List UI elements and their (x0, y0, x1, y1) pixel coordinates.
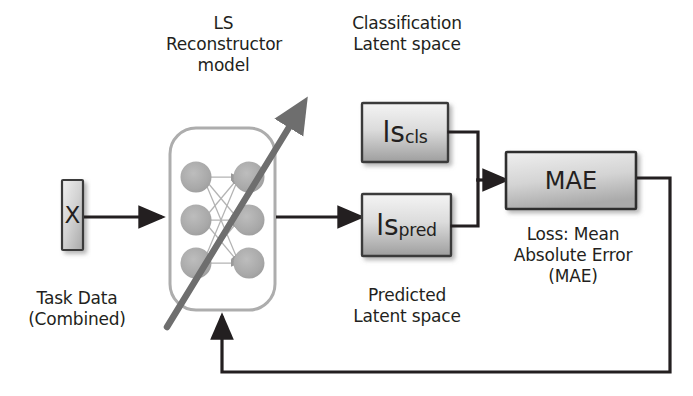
edge-latents-to-mae (449, 132, 506, 226)
ls-cls-box (362, 103, 448, 162)
loss-caption: Loss: Mean Absolute Error (MAE) (503, 224, 643, 287)
input-caption: Task Data (Combined) (16, 288, 138, 330)
diagram-canvas: X lscls lspred MAE LS Reconstructor mode… (0, 0, 693, 396)
cls-latent-caption: Classification Latent space (333, 13, 481, 55)
input-box (62, 180, 83, 250)
pred-latent-caption: Predicted Latent space (333, 285, 481, 327)
model-caption: LS Reconstructor model (166, 13, 281, 76)
ls-pred-box (362, 194, 451, 256)
mae-box (506, 152, 636, 209)
diagram-graphics (0, 0, 693, 396)
